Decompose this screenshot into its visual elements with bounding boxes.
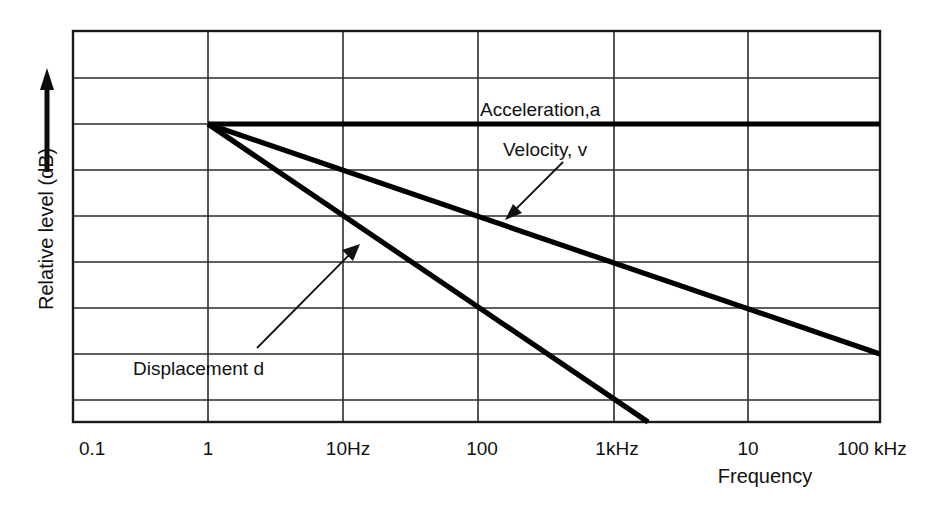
x-tick-label-1: 1 xyxy=(203,438,214,459)
chart-figure: Relative level (dB) Acceleration,a Veloc… xyxy=(0,0,944,517)
relative-level-vs-frequency-chart: Relative level (dB) Acceleration,a Veloc… xyxy=(0,0,944,517)
x-tick-label-3: 100 xyxy=(466,438,498,459)
x-tick-label-4: 1kHz xyxy=(595,438,638,459)
y-axis-title: Relative level (dB) xyxy=(35,148,57,310)
x-tick-label-2: 10Hz xyxy=(326,438,370,459)
x-axis-title: Frequency xyxy=(718,465,813,487)
acceleration-label: Acceleration,a xyxy=(480,99,601,120)
x-tick-label-0: 0.1 xyxy=(79,438,105,459)
velocity-label: Velocity, v xyxy=(503,139,588,160)
displacement-label: Displacement d xyxy=(133,358,264,379)
x-tick-label-5: 10 xyxy=(737,438,758,459)
x-tick-label-6: 100 kHz xyxy=(837,438,907,459)
